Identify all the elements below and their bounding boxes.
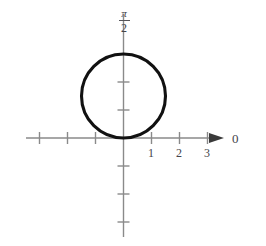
vertical-axis-label-denominator: 2	[113, 22, 135, 35]
plot-canvas	[0, 0, 266, 246]
vertical-axis-label-numerator: π	[113, 8, 135, 19]
x-tick-label-1: 1	[144, 147, 158, 159]
x-tick-label-2: 2	[172, 147, 186, 159]
vertical-axis-label: π 2	[113, 8, 135, 35]
polar-graph-figure: π 2 0 1 2 3	[0, 0, 266, 246]
horizontal-axis-arrowhead	[209, 133, 224, 143]
x-tick-label-3: 3	[200, 147, 214, 159]
horizontal-axis-end-label: 0	[232, 132, 239, 145]
